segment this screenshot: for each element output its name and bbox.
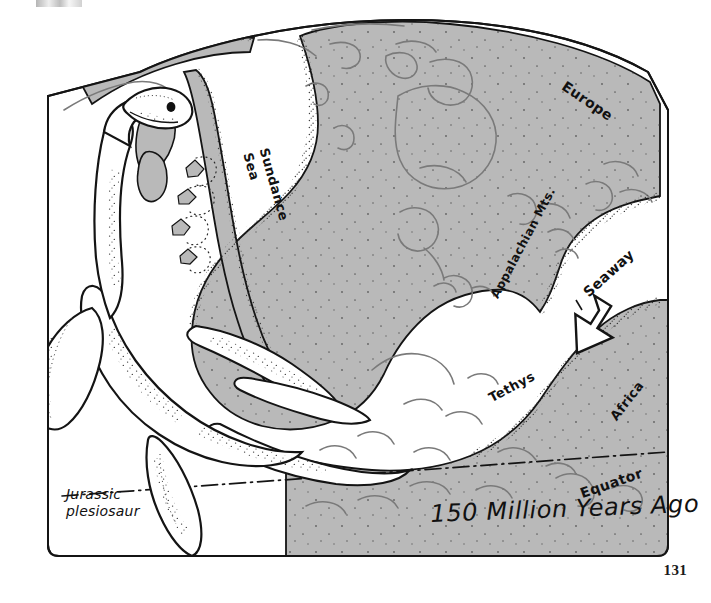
creature-caption-line1: Jurassic <box>66 486 140 503</box>
plesiosaur-eye <box>167 102 176 112</box>
page-number: 131 <box>664 562 687 579</box>
creature-caption-line2: plesiosaur <box>66 503 140 520</box>
creature-caption: Jurassic plesiosaur <box>66 486 140 520</box>
textbook-page: Sundance Sea Europe Appalachian Mts. Sea… <box>0 0 711 603</box>
